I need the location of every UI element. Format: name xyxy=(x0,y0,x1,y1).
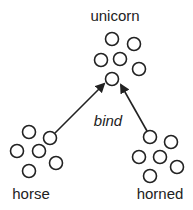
horse-node-circle xyxy=(50,157,63,170)
horned-node-circle xyxy=(165,136,178,149)
unicorn-label: unicorn xyxy=(90,7,139,24)
horse-label: horse xyxy=(12,185,50,202)
unicorn-node-circle xyxy=(106,33,119,46)
horned-node-circle xyxy=(144,131,157,144)
diagram-canvas: unicorn horse horned bind xyxy=(0,0,193,210)
horned-label: horned xyxy=(137,185,184,202)
horse-node-circle xyxy=(11,145,24,158)
unicorn-node-circle xyxy=(95,54,108,67)
bind-label: bind xyxy=(94,112,123,129)
horned-node-circle xyxy=(144,170,157,183)
horse-node-circle xyxy=(23,126,36,139)
unicorn-node-circle xyxy=(128,38,141,51)
horned-cluster xyxy=(133,131,184,183)
horse-cluster xyxy=(11,126,63,178)
horned-node-circle xyxy=(133,151,146,164)
unicorn-node-circle xyxy=(133,63,146,76)
unicorn-cluster xyxy=(95,33,146,86)
unicorn-node-circle xyxy=(106,73,119,86)
horse-node-circle xyxy=(23,165,36,178)
arrow-horned-to-unicorn xyxy=(121,85,147,131)
unicorn-node-circle xyxy=(114,53,127,66)
horned-node-circle xyxy=(154,151,167,164)
horse-node-circle xyxy=(44,132,57,145)
horned-node-circle xyxy=(171,161,184,174)
horse-node-circle xyxy=(33,145,46,158)
